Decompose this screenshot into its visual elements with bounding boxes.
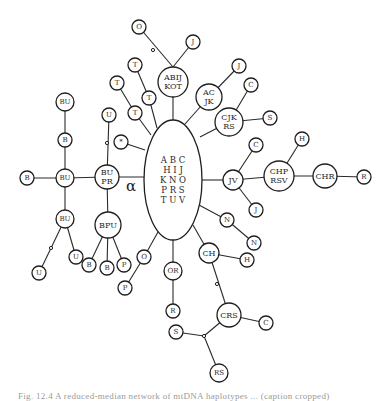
- node-label: C: [263, 319, 268, 327]
- node-label: BU: [59, 98, 70, 106]
- haplotype-node-jv: JV: [223, 170, 243, 190]
- haplotype-node-b_up: B: [58, 133, 72, 147]
- haplotype-node-h_chp: H: [295, 132, 309, 146]
- haplotype-node-abijkot: ABIJKOT: [158, 67, 188, 97]
- haplotype-node-bu_top: BU: [56, 93, 74, 111]
- haplotype-node-bupr: BUPR: [95, 165, 119, 189]
- node-label: J: [237, 62, 241, 70]
- haplotype-node-bu_mid: BU: [56, 169, 74, 187]
- haplotype-node-c_jv: C: [249, 138, 263, 152]
- node-label: U: [73, 253, 79, 261]
- haplotype-node-star: *: [114, 135, 128, 149]
- central-node-label-line: T U V: [161, 195, 186, 205]
- node-label: PR: [101, 177, 113, 186]
- node-label: T: [133, 109, 138, 117]
- haplotype-node-chprsv: CHPRSV: [264, 161, 294, 191]
- haplotype-node-c_crs: C: [259, 316, 273, 330]
- node-label: C: [248, 81, 253, 89]
- node-label: H: [244, 256, 250, 264]
- haplotype-node-t2: T: [110, 76, 124, 90]
- node-label: B: [86, 261, 91, 269]
- node-label: S: [268, 114, 273, 122]
- node-label: H: [299, 135, 305, 143]
- haplotype-node-j_jv: J: [249, 203, 263, 217]
- node-label: J: [191, 38, 195, 46]
- haplotype-node-crs: CRS: [217, 303, 241, 327]
- haplotype-node-j_top: J: [186, 35, 200, 49]
- haplotype-node-c_cjkrs: C: [244, 78, 258, 92]
- median-vector-dot: [49, 246, 52, 249]
- node-label: BPU: [99, 221, 117, 230]
- median-vector-dot: [151, 48, 154, 51]
- node-label: OR: [167, 267, 179, 275]
- node-label: P: [123, 284, 128, 292]
- central-node-label-line: P R S: [161, 185, 185, 195]
- haplotype-node-u_bu1: U: [69, 250, 83, 264]
- haplotype-node-p_low: P: [118, 281, 132, 295]
- haplotype-node-s_cjkrs: S: [263, 111, 277, 125]
- node-label: CHR: [315, 172, 335, 181]
- node-label: BU: [59, 215, 70, 223]
- node-label: R: [361, 173, 367, 181]
- haplotype-node-bpu: BPU: [95, 212, 121, 238]
- node-label: B: [24, 174, 29, 182]
- haplotype-node-r_or: R: [166, 304, 180, 318]
- alpha-label: α: [126, 177, 136, 195]
- node-label: *: [119, 138, 123, 146]
- figure-caption: Fig. 12.4 A reduced-median network of mt…: [18, 391, 330, 401]
- node-label: T: [133, 61, 138, 69]
- node-label: CH: [202, 249, 215, 258]
- node-label: B: [104, 264, 109, 272]
- haplotype-node-u_bupr: U: [102, 108, 116, 122]
- node-label: JK: [203, 97, 214, 106]
- node-label: BU: [59, 174, 70, 182]
- haplotype-node-u_bu2: U: [32, 266, 46, 280]
- haplotype-node-t1: T: [128, 58, 142, 72]
- central-haplotype-node: A B CH I JK N OP R ST U V: [144, 120, 202, 240]
- node-label: N: [251, 239, 257, 247]
- haplotype-node-s_crs: S: [169, 325, 183, 339]
- node-label: T: [147, 94, 152, 102]
- median-vector-dot: [215, 282, 218, 285]
- node-label: JV: [228, 176, 238, 185]
- haplotype-node-j_acjk: J: [232, 59, 246, 73]
- haplotype-node-n2: N: [247, 236, 261, 250]
- haplotype-node-o_low: O: [137, 250, 151, 264]
- node-label: RS: [223, 122, 235, 131]
- central-node-label-line: A B C: [160, 155, 185, 165]
- haplotype-node-b_bpu2: B: [100, 261, 114, 275]
- haplotype-node-r_chr: R: [357, 170, 371, 184]
- node-label: RSV: [270, 176, 288, 185]
- haplotype-node-t3: T: [142, 91, 156, 105]
- node-label: U: [106, 111, 112, 119]
- haplotype-node-o_top: O: [132, 20, 146, 34]
- node-label: N: [224, 216, 230, 224]
- node-label: RS: [214, 369, 224, 377]
- node-label: T: [115, 79, 120, 87]
- central-node-label-line: K N O: [160, 175, 186, 185]
- node-label: CRS: [220, 311, 238, 320]
- network-edge: [139, 27, 173, 67]
- node-label: KOT: [164, 82, 182, 91]
- haplotype-node-h_ch: H: [240, 253, 254, 267]
- haplotype-node-chr: CHR: [313, 164, 337, 188]
- haplotype-node-t4: T: [128, 106, 142, 120]
- haplotype-node-cjkrs: CJKRS: [215, 108, 243, 136]
- median-vector-dot: [105, 141, 108, 144]
- node-label: U: [36, 269, 42, 277]
- haplotype-node-acjk: ACJK: [196, 84, 222, 110]
- node-label: O: [141, 253, 147, 261]
- node-label: J: [254, 206, 258, 214]
- haplotype-node-n1: N: [220, 213, 234, 227]
- node-label: P: [122, 261, 127, 269]
- node-label: O: [136, 23, 142, 31]
- haplotype-node-b_left: B: [20, 171, 34, 185]
- haplotype-node-ch: CH: [199, 243, 219, 263]
- node-label: S: [174, 328, 179, 336]
- haplotype-node-rs_crs: RS: [210, 364, 228, 382]
- median-vector-dot: [202, 334, 205, 337]
- central-node-labels: A B CH I JK N OP R ST U V: [160, 155, 186, 205]
- haplotype-node-bu_bot: BU: [56, 210, 74, 228]
- haplotype-node-p_bpu: P: [117, 258, 131, 272]
